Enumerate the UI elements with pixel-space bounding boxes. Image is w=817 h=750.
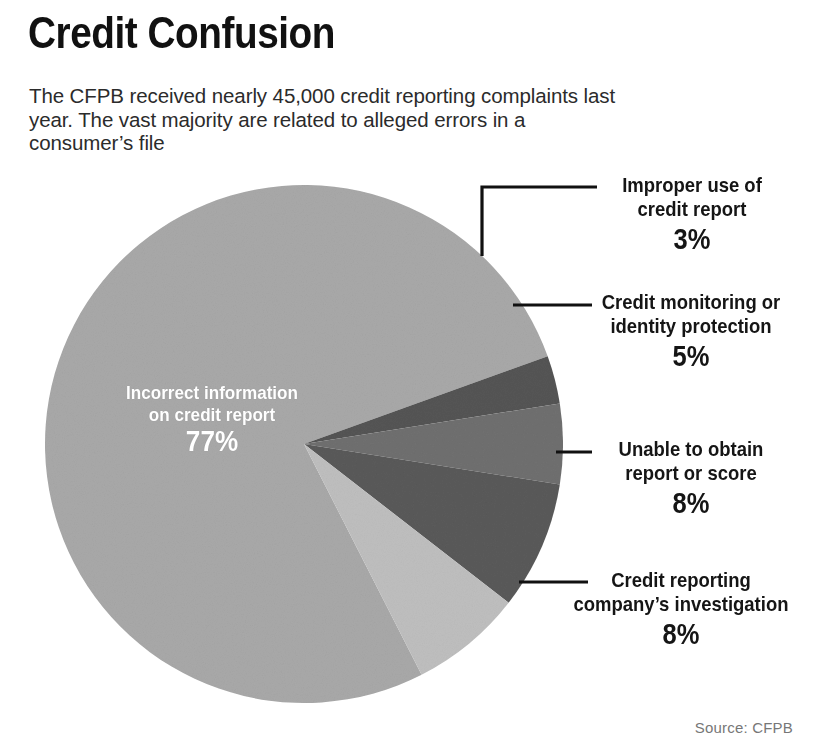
slice-label-incorrect-information: Incorrect information on credit report 7… — [122, 382, 302, 457]
slice-label-value: 77% — [122, 426, 302, 457]
callout-label: Improper use of credit report — [622, 173, 762, 220]
callout-unable-to-obtain-report-or-score: Unable to obtain report or score 8% — [592, 437, 791, 520]
callout-value: 8% — [592, 486, 791, 520]
callout-credit-monitoring-or-identity-protection: Credit monitoring or identity protection… — [592, 290, 791, 373]
leader-lines — [482, 187, 597, 582]
slice-label-name: Incorrect information on credit report — [126, 382, 298, 425]
page-title: Credit Confusion — [28, 8, 335, 58]
source-credit: Source: CFPB — [695, 719, 793, 736]
callout-improper-use-of-credit-report: Improper use of credit report 3% — [596, 173, 788, 256]
callout-value: 5% — [592, 339, 791, 373]
infographic-page: Credit Confusion The CFPB received nearl… — [0, 0, 817, 750]
callout-credit-reporting-company-investigation: Credit reporting company’s investigation… — [571, 568, 791, 651]
callout-label: Unable to obtain report or score — [619, 437, 764, 484]
pie-slice — [304, 356, 560, 444]
page-subtitle: The CFPB received nearly 45,000 credit r… — [29, 84, 619, 155]
callout-label: Credit monitoring or identity protection — [602, 290, 781, 337]
callout-label: Credit reporting company’s investigation — [574, 568, 789, 615]
pie-slice — [304, 403, 563, 484]
callout-value: 8% — [571, 617, 791, 651]
callout-value: 3% — [596, 222, 788, 256]
pie-slice — [304, 444, 509, 675]
pie-slice — [304, 444, 560, 603]
leader-line-improper-use — [482, 187, 597, 256]
